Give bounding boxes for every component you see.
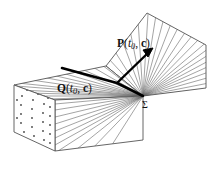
vector-q-name: Q [57,82,66,94]
geometric-figure: P(t0, c) Q(t0, c) Σ [0,0,219,173]
vector-q-close-paren: ) [88,82,92,94]
prism-front-face [55,96,143,153]
surface-sigma-label: Σ [142,100,148,110]
figure-canvas [0,0,219,173]
vector-p-close-paren: ) [146,37,150,49]
vector-p-label: P(t0, c) [117,38,150,52]
vector-q-label: Q(t0, c) [57,83,92,97]
vector-p-name: P [117,37,124,49]
